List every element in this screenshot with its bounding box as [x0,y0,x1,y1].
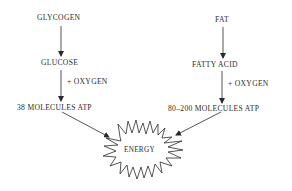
reagent-oxygen-right: + OXYGEN [228,80,269,88]
node-fatty-acid: FATTY ACID [192,61,238,69]
node-glycogen: GLYCOGEN [37,14,80,22]
arrow-right-atp-to-energy [176,112,221,135]
node-fat: FAT [215,16,229,24]
diagram-canvas [0,0,292,191]
node-atp-right: 80–200 MOLECULES ATP [168,105,259,113]
arrow-left-atp-to-energy [62,112,109,137]
reagent-oxygen-left: + OXYGEN [67,78,108,86]
node-energy: ENERGY [124,147,155,154]
node-glucose: GLUCOSE [41,59,78,67]
node-atp-left: 38 MOLECULES ATP [17,104,92,112]
